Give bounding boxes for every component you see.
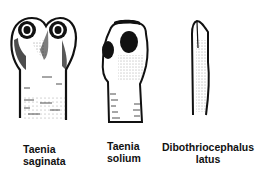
label-line-2: latus [158,153,258,165]
solium-sucker-left [102,41,114,59]
label-dibothriocephalus-latus: Dibothriocephalus latus [158,141,258,165]
label-line-1: Dibothriocephalus [158,141,258,153]
dibothriocephalus-latus-scolex [192,21,209,115]
label-line-2: solium [107,152,141,164]
label-taenia-solium: Taenia solium [107,140,141,164]
label-line-1: Taenia [23,143,66,155]
solium-sucker-center [120,31,138,53]
label-line-1: Taenia [107,140,141,152]
taenia-solium-scolex [102,20,148,122]
label-taenia-saginata: Taenia saginata [23,143,66,167]
label-line-2: saginata [23,155,66,167]
taenia-saginata-scolex [11,18,76,120]
